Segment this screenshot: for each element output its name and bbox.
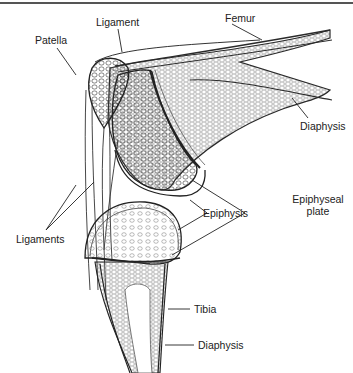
label-ligaments: Ligaments xyxy=(16,233,64,245)
label-tibia: Tibia xyxy=(194,303,216,315)
label-diaphysis-tibia: Diaphysis xyxy=(198,339,244,351)
femur xyxy=(108,30,332,196)
label-ligament: Ligament xyxy=(96,16,139,28)
knee-joint-illustration xyxy=(0,0,353,373)
tibia xyxy=(85,202,181,373)
label-epiphysis: Epiphysis xyxy=(203,207,248,219)
label-diaphysis-femur: Diaphysis xyxy=(300,120,346,132)
label-patella: Patella xyxy=(35,34,67,46)
label-epiphyseal-plate-line2: plate xyxy=(288,205,348,217)
label-epiphyseal-plate: Epiphyseal plate xyxy=(288,193,348,217)
label-epiphyseal-plate-line1: Epiphyseal xyxy=(288,193,348,205)
label-femur: Femur xyxy=(225,12,255,24)
